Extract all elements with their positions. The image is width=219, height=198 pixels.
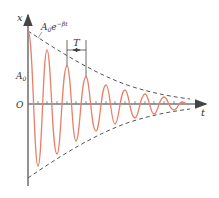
upper-envelope	[28, 31, 190, 99]
amplitude-label: A0	[15, 71, 27, 82]
x-axis-label: x	[17, 12, 23, 23]
envelope-leader	[38, 32, 42, 38]
oscillation-curve	[28, 31, 188, 166]
envelope-label: A0e−βt	[40, 20, 68, 33]
origin-label: O	[16, 100, 24, 110]
t-axis-label: t	[201, 107, 206, 118]
damped-oscillation-diagram: x t O A0 A0e−βt T	[0, 0, 219, 198]
period-label: T	[73, 37, 81, 48]
